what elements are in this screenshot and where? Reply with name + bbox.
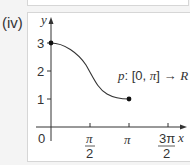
annotation-arrow: ] → <box>156 68 180 83</box>
function-annotation: p: [0, π] → R <box>117 68 188 83</box>
y-tick-label-2: 2 <box>37 64 44 79</box>
y-tick-label-1: 1 <box>37 92 44 107</box>
y-axis-label: y <box>39 12 47 27</box>
y-axis-arrow-icon <box>49 17 54 24</box>
annotation-domain-open: : [0, <box>125 68 150 83</box>
x-axis-arrow-icon <box>180 125 187 130</box>
x-axis-label: x <box>177 130 184 145</box>
endpoint-end-marker <box>127 97 132 102</box>
x-tick-label-three-half-pi-den: 2 <box>163 146 170 161</box>
annotation-R: R <box>179 68 188 83</box>
y-tick-label-3: 3 <box>37 36 44 51</box>
x-tick-label-half-pi-num: π <box>86 131 93 146</box>
chart-svg: 3 2 1 0 π 2 π 3π 2 x y p: [0, π] → R <box>0 0 190 165</box>
x-tick-label-three-half-pi-num: 3π <box>159 131 175 146</box>
endpoint-start-marker <box>49 41 54 46</box>
x-tick-label-half-pi-den: 2 <box>86 146 93 161</box>
origin-label: 0 <box>38 131 45 146</box>
x-tick-label-pi: π <box>124 132 131 147</box>
